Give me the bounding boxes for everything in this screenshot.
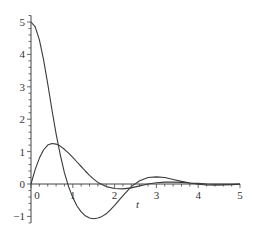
x-tick-label: 1 — [70, 189, 76, 201]
line-chart: −1012345012345t — [0, 0, 256, 234]
y-tick-label: 1 — [20, 146, 26, 158]
x-tick-label: 3 — [154, 189, 160, 201]
series-line-curve-1 — [31, 22, 240, 219]
y-tick-label: −1 — [13, 210, 25, 222]
plot-area — [31, 22, 240, 219]
y-tick-label: 2 — [20, 113, 26, 125]
y-tick-label: 5 — [20, 16, 26, 28]
x-tick-label: 0 — [34, 189, 40, 201]
y-tick-label: 4 — [20, 48, 26, 60]
x-axis-label: t — [136, 198, 140, 210]
y-tick-label: 0 — [20, 178, 26, 190]
x-tick-label: 4 — [195, 189, 201, 201]
x-tick-label: 5 — [237, 189, 243, 201]
y-tick-label: 3 — [20, 81, 26, 93]
axes: −1012345012345t — [13, 16, 243, 223]
x-tick-label: 2 — [112, 189, 118, 201]
